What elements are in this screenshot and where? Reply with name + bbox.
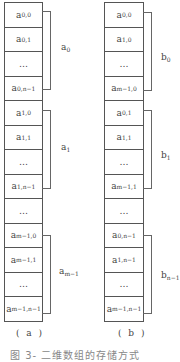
group-bracket-am1 — [42, 235, 51, 314]
sublabel-a: ( a ) — [16, 328, 44, 338]
group-label-a0: a0 — [61, 42, 70, 53]
cell: am−1,n−1 — [105, 297, 143, 321]
cell: a0,0 — [105, 3, 143, 28]
cell: a0,0 — [5, 3, 42, 28]
cell: … — [105, 52, 143, 77]
sublabel-b: ( b ) — [118, 328, 147, 338]
cell: … — [5, 150, 42, 175]
cell: a0,1 — [105, 101, 143, 126]
group-bracket-a0 — [42, 11, 51, 90]
group-label-b1: b1 — [161, 150, 171, 161]
figure-caption: 图 3- 二维数组的存储方式 — [10, 347, 180, 362]
cell: … — [105, 199, 143, 224]
group-label-bn1: bn−1 — [161, 270, 179, 281]
cell: … — [105, 273, 143, 298]
cell: … — [5, 199, 42, 224]
cell: a1,n−1 — [5, 175, 42, 200]
cell: a0,n−1 — [5, 77, 42, 102]
column-b-column-major: a0,0 a1,0 … am−1,0 a0,1 a1,1 … am−1,1 … … — [104, 2, 144, 322]
group-bracket-bn1 — [143, 235, 152, 314]
cell: am−1,1 — [105, 175, 143, 200]
cell: … — [105, 150, 143, 175]
cell: am−1,0 — [105, 77, 143, 102]
group-bracket-a1 — [42, 110, 51, 189]
cell: am−1,n−1 — [5, 297, 42, 321]
cell: am−1,0 — [5, 224, 42, 249]
cell: a1,n−1 — [105, 248, 143, 273]
group-bracket-b1 — [143, 110, 152, 189]
group-label-am1: am−1 — [59, 266, 79, 277]
group-label-b0: b0 — [161, 52, 171, 63]
cell: a1,0 — [5, 101, 42, 126]
cell: a1,1 — [5, 126, 42, 151]
column-a-row-major: a0,0 a0,1 … a0,n−1 a1,0 a1,1 … a1,n−1 … … — [4, 2, 43, 322]
group-bracket-b0 — [143, 12, 152, 91]
cell: a0,1 — [5, 28, 42, 53]
cell: … — [5, 273, 42, 298]
cell: am−1,1 — [5, 248, 42, 273]
cell: a0,n−1 — [105, 224, 143, 249]
group-label-a1: a1 — [61, 142, 70, 153]
cell: a1,0 — [105, 28, 143, 53]
cell: a1,1 — [105, 126, 143, 151]
cell: … — [5, 52, 42, 77]
